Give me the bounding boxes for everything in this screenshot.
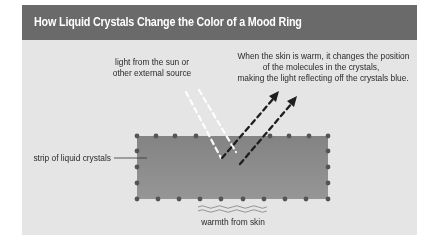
- explanation-label: When the skin is warm, it changes the po…: [237, 50, 404, 83]
- mood-ring-illustration: [0, 0, 437, 245]
- strip-label: strip of liquid crystals: [33, 152, 112, 163]
- light-source-label: light from the sun or other external sou…: [108, 56, 196, 78]
- warmth-waves-icon: [198, 206, 267, 213]
- warmth-label: warmth from skin: [193, 216, 272, 227]
